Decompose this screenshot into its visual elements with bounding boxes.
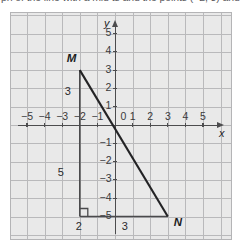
right-angle-marker	[80, 209, 88, 217]
point-label-n: N	[174, 216, 182, 228]
prompt-text: ph of the line with a mid ts and the poi…	[1, 0, 241, 3]
segment-label-horizontal-right: 3	[122, 220, 128, 232]
segment-label-vertical-upper: 3	[65, 85, 71, 97]
hypotenuse-segment	[80, 70, 168, 216]
graph-screenshot: ph of the line with a mid ts and the poi…	[0, 0, 241, 247]
triangle-layer	[10, 12, 232, 240]
segment-label-vertical-lower: 5	[58, 166, 64, 178]
prompt-text-strip: ph of the line with a mid ts and the poi…	[0, 0, 241, 5]
segment-label-horizontal-left: 2	[76, 220, 82, 232]
point-label-m: M	[67, 52, 77, 64]
coordinate-plane: −5−4−3−2−11234554321−1−2−3−4−50xy MN 352…	[10, 12, 232, 240]
